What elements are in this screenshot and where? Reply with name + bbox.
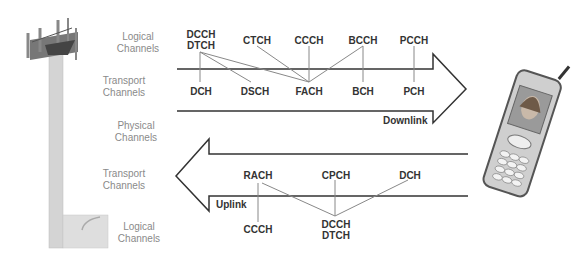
ul-transport-cpch: CPCH — [318, 170, 354, 181]
uplink-mapping-lines — [258, 180, 408, 222]
ul-logical-ccch: CCCH — [240, 224, 276, 235]
dl-transport-fach: FACH — [292, 86, 326, 97]
label-downlink-logical-channels: Logical Channels — [98, 31, 178, 55]
label-uplink-logical-channels: Logical Channels — [99, 221, 179, 245]
dl-logical-ctch: CTCH — [240, 35, 274, 46]
ul-transport-rach: RACH — [240, 170, 276, 181]
diagram-canvas — [0, 0, 571, 266]
dl-transport-bch: BCH — [346, 86, 380, 97]
mobile-phone-icon — [481, 52, 569, 199]
dl-logical-ccch: CCCH — [292, 35, 326, 46]
uplink-label: Uplink — [216, 199, 247, 210]
ul-transport-dch: DCH — [392, 170, 428, 181]
dl-logical-pcch: PCCH — [397, 35, 431, 46]
dl-logical-bcch: BCCH — [346, 35, 380, 46]
label-physical-channels: Physical Channels — [96, 120, 176, 144]
downlink-mapping-lines — [200, 46, 414, 82]
label-downlink-transport-channels: Transport Channels — [84, 75, 164, 99]
dl-logical-dcch-dtch: DCCH DTCH — [184, 29, 218, 51]
dl-transport-dch: DCH — [184, 86, 218, 97]
downlink-label: Downlink — [383, 115, 427, 126]
label-uplink-transport-channels: Transport Channels — [84, 168, 164, 192]
dl-transport-dsch: DSCH — [238, 86, 272, 97]
dl-transport-pch: PCH — [397, 86, 431, 97]
ul-logical-dcch-dtch: DCCH DTCH — [318, 219, 354, 241]
